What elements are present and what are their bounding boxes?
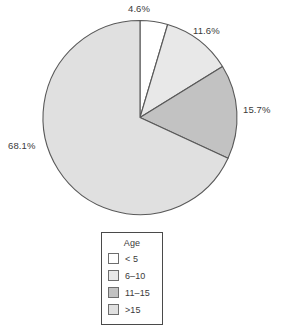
slice-label-11-15: 15.7% [243,104,270,115]
legend-item-11-15: 11–15 [102,284,162,301]
pie-chart-figure: 4.6% 11.6% 15.7% 68.1% Age < 56–1011–15>… [0,0,284,330]
legend-items: < 56–1011–15>15 [102,250,162,318]
chart-legend: Age < 56–1011–15>15 [101,232,163,325]
legend-label-over-15: >15 [125,305,141,315]
legend-item-under-5: < 5 [102,250,162,267]
legend-label-11-15: 11–15 [125,288,150,298]
legend-item-over-15: >15 [102,301,162,318]
pie-slice-group [43,21,237,215]
legend-label-under-5: < 5 [125,254,138,264]
legend-swatch-11-15 [108,287,119,298]
legend-swatch-6-10 [108,270,119,281]
legend-label-6-10: 6–10 [125,271,145,281]
legend-swatch-under-5 [108,253,119,264]
slice-label-over-15: 68.1% [8,140,35,151]
legend-item-6-10: 6–10 [102,267,162,284]
slice-label-under-5: 4.6% [128,3,150,14]
legend-swatch-over-15 [108,304,119,315]
legend-title: Age [102,238,162,248]
slice-label-6-10: 11.6% [193,25,220,36]
